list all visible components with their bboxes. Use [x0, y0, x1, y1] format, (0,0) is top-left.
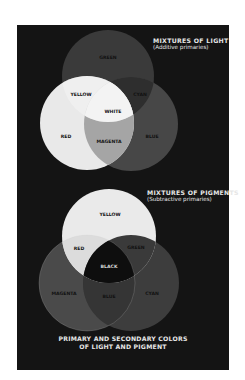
caption-line-2: OF LIGHT AND PIGMENT [17, 343, 229, 351]
pigment-subtitle: (Subtractive primaries) [147, 196, 239, 203]
label-black-pigment: BLACK [101, 264, 118, 269]
label-red-pigment: RED [74, 246, 85, 251]
light-title: MIXTURES OF LIGHT [153, 37, 229, 44]
pigment-heading: MIXTURES OF PIGMENTS (Subtractive primar… [147, 189, 239, 203]
label-cyan-pigment: CYAN [145, 291, 159, 296]
label-blue-light: BLUE [145, 134, 158, 139]
label-red-light: RED [61, 134, 72, 139]
label-green-light: GREEN [99, 55, 117, 60]
label-magenta-pigment: MAGENTA [51, 291, 77, 296]
label-green-pigment: GREEN [127, 245, 145, 250]
label-white-light: WHITE [105, 109, 122, 114]
label-cyan-light: CYAN [133, 92, 147, 97]
pigment-title: MIXTURES OF PIGMENTS [147, 189, 239, 196]
caption-line-1: PRIMARY AND SECONDARY COLORS [17, 335, 229, 343]
label-magenta-light: MAGENTA [96, 139, 122, 144]
subtractive-venn: YELLOW RED GREEN BLACK MAGENTA BLUE CYAN [39, 189, 179, 331]
light-subtitle: (Additive primaries) [153, 44, 229, 51]
figure-caption: PRIMARY AND SECONDARY COLORS OF LIGHT AN… [17, 335, 229, 351]
label-blue-pigment: BLUE [102, 294, 115, 299]
label-yellow-pigment: YELLOW [98, 212, 120, 217]
light-heading: MIXTURES OF LIGHT (Additive primaries) [153, 37, 229, 51]
label-yellow-light: YELLOW [69, 92, 91, 97]
